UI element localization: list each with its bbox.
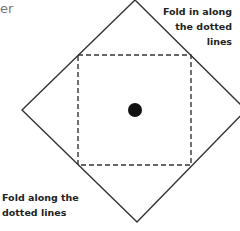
label-line: the dotted [152,19,232,34]
center-dot [128,103,142,117]
label-fold-along: Fold along the dotted lines [2,190,92,220]
label-line: Fold along the [2,190,92,205]
label-line: lines [152,34,232,49]
label-line: dotted lines [2,205,92,220]
label-line: Fold in along [152,4,232,19]
label-fold-in: Fold in along the dotted lines [152,4,232,49]
fold-diagram: er Fold in along the dotted lines Fold a… [0,0,240,231]
